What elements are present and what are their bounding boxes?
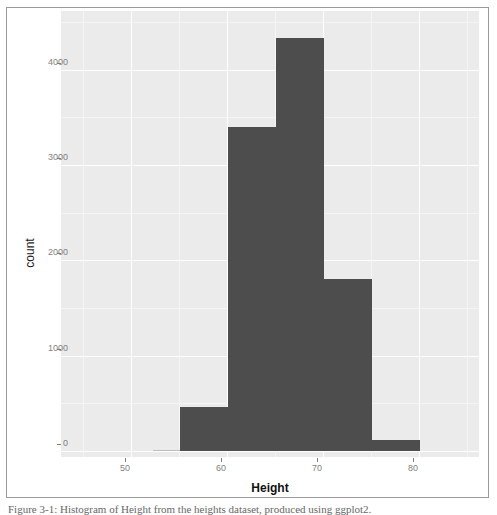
ytick-mark-1000 — [57, 349, 61, 350]
plot-panel — [61, 11, 479, 457]
plot-root: 0 1000 2000 3000 4000 count 50 60 70 80 … — [7, 8, 488, 497]
xtick-label-50: 50 — [105, 464, 145, 473]
ytick-mark-4000 — [57, 63, 61, 64]
histogram-bar-55-60 — [180, 407, 228, 451]
xtick-mark-70 — [317, 458, 318, 462]
gridline-minor-v-55 — [179, 11, 180, 457]
ytick-label-0: 0 — [24, 439, 68, 448]
xtick-mark-80 — [413, 458, 414, 462]
ytick-label-4000: 4000 — [24, 58, 68, 67]
ytick-mark-0 — [57, 444, 61, 445]
histogram-bar-65-70 — [276, 38, 324, 451]
gridline-minor-h-3500 — [61, 117, 479, 118]
gridline-minor-v-45 — [83, 11, 84, 457]
figure-frame: 0 1000 2000 3000 4000 count 50 60 70 80 … — [6, 7, 489, 498]
gridline-major-v-50 — [131, 11, 132, 457]
gridline-minor-h-4500 — [61, 22, 479, 23]
xtick-mark-60 — [221, 458, 222, 462]
y-axis-title: count — [23, 238, 37, 267]
gridline-major-h-4000 — [61, 70, 479, 71]
histogram-bar-70-75 — [324, 279, 372, 451]
xtick-label-80: 80 — [393, 464, 433, 473]
histogram-bar-60-65 — [228, 127, 276, 451]
xtick-label-60: 60 — [201, 464, 241, 473]
figure-caption: Figure 3-1: Histogram of Height from the… — [8, 503, 489, 515]
gridline-major-v-80 — [419, 11, 420, 457]
x-axis-title: Height — [61, 481, 479, 495]
gridline-minor-v-85 — [467, 11, 468, 457]
xtick-mark-50 — [125, 458, 126, 462]
xtick-label-70: 70 — [297, 464, 337, 473]
ytick-label-1000: 1000 — [24, 344, 68, 353]
gridline-major-h-0 — [61, 451, 479, 452]
ytick-label-3000: 3000 — [24, 153, 68, 162]
ytick-mark-3000 — [57, 158, 61, 159]
ytick-mark-2000 — [57, 253, 61, 254]
histogram-bar-75-80 — [372, 440, 420, 451]
